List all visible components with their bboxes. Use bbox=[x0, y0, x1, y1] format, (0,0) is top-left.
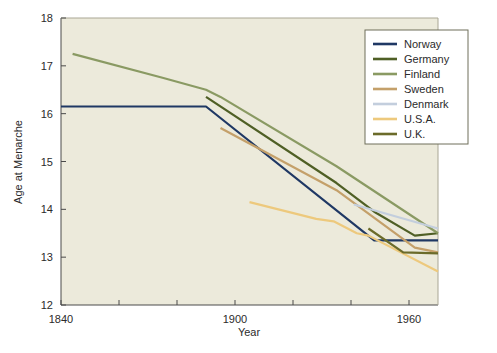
y-tick-label: 18 bbox=[41, 12, 53, 24]
y-tick-label: 17 bbox=[41, 60, 53, 72]
x-tick-label: 1960 bbox=[397, 313, 421, 325]
legend-label-3: Sweden bbox=[404, 83, 444, 95]
chart-figure: 12131415161718 184019001960 Year Age at … bbox=[0, 0, 497, 353]
y-tick-label: 15 bbox=[41, 156, 53, 168]
y-tick-label: 14 bbox=[41, 203, 53, 215]
x-tick-label: 1840 bbox=[49, 313, 73, 325]
x-tick-label: 1900 bbox=[223, 313, 247, 325]
legend: NorwayGermanyFinlandSwedenDenmarkU.S.A.U… bbox=[365, 30, 468, 144]
y-tick-label: 16 bbox=[41, 108, 53, 120]
y-tick-label: 12 bbox=[41, 299, 53, 311]
y-axis-label: Age at Menarche bbox=[12, 120, 24, 204]
legend-label-5: U.S.A. bbox=[404, 113, 436, 125]
menarche-age-line-chart: 12131415161718 184019001960 Year Age at … bbox=[0, 0, 497, 353]
legend-label-2: Finland bbox=[404, 68, 440, 80]
legend-label-6: U.K. bbox=[404, 128, 425, 140]
legend-label-4: Denmark bbox=[404, 98, 449, 110]
legend-label-1: Germany bbox=[404, 53, 450, 65]
x-axis-label: Year bbox=[238, 326, 261, 338]
y-tick-label: 13 bbox=[41, 251, 53, 263]
legend-label-0: Norway bbox=[404, 38, 442, 50]
y-axis-tick-labels: 12131415161718 bbox=[41, 12, 53, 311]
x-axis-tick-labels: 184019001960 bbox=[49, 313, 421, 325]
